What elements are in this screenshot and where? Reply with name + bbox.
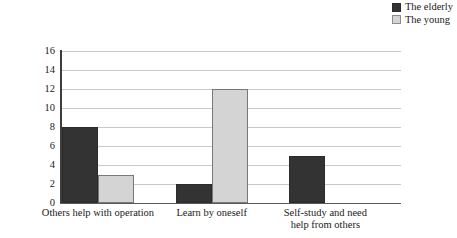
bar xyxy=(98,175,134,204)
y-axis-tick-label: 10 xyxy=(45,103,56,114)
y-axis-tick-label: 12 xyxy=(45,84,56,95)
bar-chart: Coded reference points 1614121086420 Oth… xyxy=(0,0,457,238)
y-axis-tick-label: 4 xyxy=(50,160,55,171)
y-axis-tick-labels: 1614121086420 xyxy=(34,51,58,203)
bar xyxy=(176,184,212,203)
y-axis-line xyxy=(60,50,62,204)
y-axis-tick-label: 16 xyxy=(45,46,56,57)
bar-group-container xyxy=(60,51,401,203)
x-axis-category-label: Self-study and needhelp from others xyxy=(245,207,405,230)
y-axis-tick-label: 14 xyxy=(45,65,56,76)
y-axis-tick-label: 2 xyxy=(50,179,55,190)
x-axis-category-labels: Others help with operationLearn by onese… xyxy=(60,207,401,237)
bar xyxy=(62,127,98,203)
plot-area xyxy=(60,51,401,203)
bar xyxy=(289,156,325,204)
y-axis-tick-label: 8 xyxy=(50,122,55,133)
y-axis-tick-label: 6 xyxy=(50,141,55,152)
x-axis-line xyxy=(60,203,401,204)
bar xyxy=(212,89,248,203)
